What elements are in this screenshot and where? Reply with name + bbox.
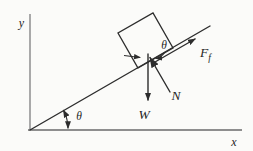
origin-angle-arc xyxy=(64,111,69,129)
diagram-canvas: y x θ W N Ff θ xyxy=(0,0,253,151)
friction-label: Ff xyxy=(199,45,212,63)
normal-vector xyxy=(150,58,170,93)
apex-angle-label: θ xyxy=(161,39,167,51)
x-axis-label: x xyxy=(230,135,237,149)
y-axis-label: y xyxy=(18,16,25,30)
weight-label: W xyxy=(138,107,151,122)
origin-angle-label: θ xyxy=(76,110,82,122)
incline-line xyxy=(30,26,210,130)
normal-label: N xyxy=(170,88,181,103)
incline-free-body-diagram: y x θ W N Ff θ xyxy=(0,0,253,151)
